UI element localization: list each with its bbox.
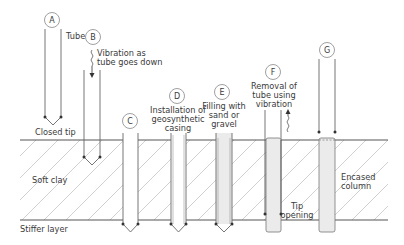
up-arrow-icon bbox=[286, 109, 291, 114]
encased-column-installation-diagram: Soft clay Stiffer layer A Tube Closed ti… bbox=[0, 0, 404, 245]
step-c-label: C bbox=[127, 117, 133, 126]
step-b-label: B bbox=[90, 33, 96, 42]
step-g-label: G bbox=[324, 46, 330, 55]
stiffer-layer-label: Stiffer layer bbox=[20, 224, 69, 234]
step-a-label: A bbox=[49, 16, 55, 25]
filling-label-line3: gravel bbox=[211, 119, 237, 129]
step-a: A Tube Closed tip bbox=[35, 13, 85, 138]
vibration-wave-icon bbox=[91, 50, 93, 66]
closed-tip-label: Closed tip bbox=[35, 127, 76, 137]
column-label: column bbox=[341, 181, 371, 191]
step-d-label: D bbox=[174, 92, 180, 101]
tube-label: Tube bbox=[65, 31, 85, 41]
removal-label-line3: vibration bbox=[256, 99, 292, 109]
step-c: C bbox=[122, 114, 140, 233]
installation-label-line3: casing bbox=[165, 123, 191, 133]
vibration-label-line2: tube goes down bbox=[97, 57, 162, 67]
soft-clay-label: Soft clay bbox=[32, 175, 68, 185]
opening-label: opening bbox=[280, 210, 313, 220]
down-arrow-icon bbox=[90, 73, 95, 78]
step-f-label: F bbox=[271, 68, 276, 77]
step-e-label: E bbox=[219, 88, 224, 97]
vibration-wave-icon bbox=[287, 116, 289, 132]
